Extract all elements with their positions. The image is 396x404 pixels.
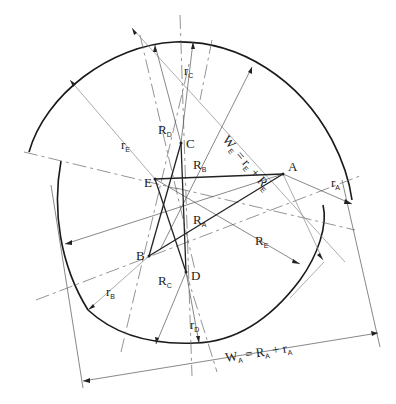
point-markers — [148, 142, 285, 274]
formula-WA: WA = RA + rA — [224, 340, 293, 366]
label-RB: RB — [193, 157, 207, 173]
cam-diagram: A B C D E rA rB rC rD rE RA RB RC RD RE … — [0, 0, 396, 404]
link-lines — [149, 143, 283, 272]
point-labels: A B C D E — [136, 136, 298, 283]
arrowheads — [65, 28, 378, 383]
label-rB: rB — [106, 284, 115, 300]
point-B: B — [136, 248, 145, 263]
point-D: D — [191, 268, 200, 283]
arc-left — [57, 161, 88, 310]
point-A: A — [288, 159, 298, 174]
label-RA: RA — [193, 212, 207, 228]
radius-lines — [51, 28, 380, 388]
radius-labels: rA rB rC rD rE RA RB RC RD RE — [106, 63, 340, 333]
label-RD: RD — [158, 122, 172, 138]
label-RC: RC — [158, 273, 172, 289]
label-rA: rA — [331, 175, 340, 191]
point-E: E — [144, 175, 152, 190]
label-RE: RE — [255, 233, 269, 249]
point-C: C — [186, 136, 195, 151]
